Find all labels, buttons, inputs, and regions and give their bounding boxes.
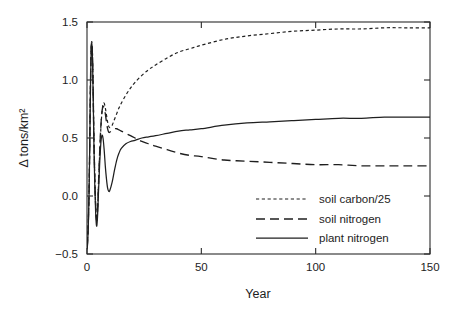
x-tick-label-3: 150	[420, 261, 439, 273]
x-axis-tick-labels: 050100150	[84, 261, 440, 273]
line-chart: −0.50.00.51.01.5 050100150 Δ tons/km² Ye…	[0, 0, 462, 322]
x-axis-title: Year	[245, 287, 270, 301]
chart-legend: soil carbon/25soil nitrogenplant nitroge…	[256, 193, 391, 244]
figure-panel: −0.50.00.51.01.5 050100150 Δ tons/km² Ye…	[0, 0, 462, 322]
y-tick-label-1: 0.0	[62, 190, 78, 202]
legend-label-plant-nitrogen: plant nitrogen	[319, 232, 389, 244]
x-tick-label-2: 100	[306, 261, 325, 273]
y-tick-label-3: 1.0	[62, 74, 78, 86]
y-tick-label-0: −0.5	[55, 248, 78, 260]
x-tick-label-0: 0	[84, 261, 90, 273]
y-axis-tick-labels: −0.50.00.51.01.5	[55, 16, 78, 260]
y-tick-label-4: 1.5	[62, 16, 78, 28]
x-tick-label-1: 50	[195, 261, 208, 273]
legend-label-soil-nitrogen: soil nitrogen	[319, 213, 381, 225]
y-axis-title: Δ tons/km²	[17, 108, 31, 167]
legend-label-soil-carbon-25: soil carbon/25	[319, 193, 391, 205]
y-tick-label-2: 0.5	[62, 132, 78, 144]
